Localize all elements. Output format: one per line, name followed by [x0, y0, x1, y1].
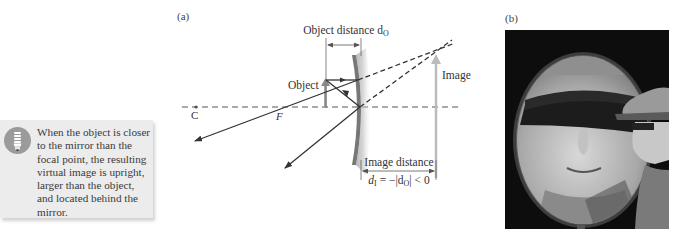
- image-distance-label: Image distance: [364, 156, 433, 169]
- center-label: C: [191, 109, 198, 121]
- object-distance-label: Object distance dO: [303, 24, 389, 38]
- object-label: Object: [288, 79, 319, 92]
- reflected-ray-2: [285, 107, 360, 168]
- focal-label: F: [275, 110, 283, 122]
- image-label: Image: [442, 69, 471, 82]
- image-distance-formula: dI = −|dO| < 0: [368, 174, 430, 188]
- concave-mirror-photo: [505, 30, 669, 229]
